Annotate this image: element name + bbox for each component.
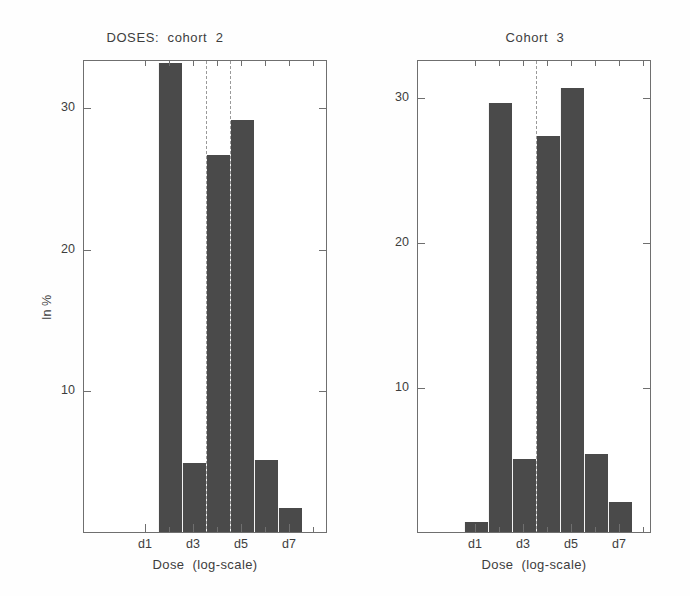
- bar-d4: [206, 155, 230, 532]
- x-tick-mark: [475, 60, 476, 66]
- x-tick-mark: [265, 60, 266, 66]
- x-tick-mark-major: [475, 524, 476, 533]
- y-tick-label: 20: [379, 235, 409, 249]
- y-tick-mark: [417, 243, 425, 244]
- y-tick-mark: [643, 243, 651, 244]
- bar-d6: [254, 460, 278, 532]
- x-tick-mark-major: [619, 524, 620, 533]
- x-tick-mark: [145, 60, 146, 66]
- x-tick-label: d1: [132, 537, 158, 551]
- y-tick-mark: [643, 388, 651, 389]
- x-tick-label: d3: [180, 537, 206, 551]
- annotation-dashed-line-1: [536, 61, 537, 532]
- x-tick-mark-major: [523, 524, 524, 533]
- x-tick-mark: [169, 527, 170, 533]
- x-tick-mark: [619, 60, 620, 66]
- x-tick-mark: [571, 60, 572, 66]
- x-axis-label-left: Dose (log-scale): [83, 557, 327, 572]
- x-tick-mark-major: [571, 524, 572, 533]
- x-tick-mark: [595, 60, 596, 66]
- y-tick-label: 10: [45, 383, 75, 397]
- bar-d7: [608, 502, 632, 532]
- x-tick-mark: [643, 60, 644, 66]
- x-tick-mark: [289, 60, 290, 66]
- y-tick-mark: [319, 391, 327, 392]
- x-tick-mark-major: [289, 524, 290, 533]
- bar-d2: [158, 63, 182, 532]
- y-axis-label-left: In %: [40, 295, 54, 320]
- bar-d1: [464, 522, 488, 532]
- y-tick-mark: [643, 98, 651, 99]
- x-tick-mark: [499, 527, 500, 533]
- x-tick-mark: [241, 60, 242, 66]
- x-tick-label: d7: [276, 537, 302, 551]
- bar-d4: [536, 136, 560, 532]
- bar-d5: [230, 120, 254, 532]
- y-tick-mark: [83, 391, 91, 392]
- x-tick-mark-major: [241, 524, 242, 533]
- x-tick-mark: [643, 527, 644, 533]
- x-tick-mark: [217, 527, 218, 533]
- plot-inner-right: [418, 61, 650, 532]
- plot-area-right: [417, 60, 651, 533]
- y-tick-mark: [319, 250, 327, 251]
- x-tick-mark: [193, 60, 194, 66]
- x-tick-label: d5: [228, 537, 254, 551]
- x-tick-label: d5: [558, 537, 584, 551]
- bar-d7: [278, 508, 302, 532]
- y-tick-mark: [417, 98, 425, 99]
- x-tick-mark: [313, 527, 314, 533]
- bar-d2: [488, 103, 512, 532]
- y-tick-mark: [83, 108, 91, 109]
- chart-title-right: Cohort 3: [380, 30, 690, 45]
- y-tick-mark: [319, 108, 327, 109]
- plot-inner-left: [84, 61, 326, 532]
- y-tick-label: 30: [45, 100, 75, 114]
- x-tick-mark: [313, 60, 314, 66]
- x-tick-mark: [217, 60, 218, 66]
- chart-title-left: DOSES: cohort 2: [0, 30, 330, 45]
- bar-d3: [512, 459, 536, 532]
- y-tick-label: 10: [379, 380, 409, 394]
- annotation-dashed-line-1: [206, 61, 207, 532]
- y-tick-mark: [83, 250, 91, 251]
- x-tick-mark: [547, 527, 548, 533]
- y-tick-label: 30: [379, 90, 409, 104]
- bar-d5: [560, 88, 584, 532]
- x-tick-mark: [595, 527, 596, 533]
- x-axis-label-right: Dose (log-scale): [417, 557, 651, 572]
- x-tick-mark: [523, 60, 524, 66]
- x-tick-label: d3: [510, 537, 536, 551]
- x-tick-mark: [547, 60, 548, 66]
- chart-panel-left: DOSES: cohort 2 102030 d1d3d5d7 Dose (lo…: [0, 0, 360, 596]
- bar-d6: [584, 454, 608, 532]
- y-tick-mark: [417, 388, 425, 389]
- x-tick-mark-major: [193, 524, 194, 533]
- plot-area-left: [83, 60, 327, 533]
- x-tick-mark: [169, 60, 170, 66]
- annotation-dashed-line-2: [230, 61, 231, 532]
- chart-panel-right: Cohort 3 102030 d1d3d5d7 Dose (log-scale…: [360, 0, 690, 596]
- figure-canvas: DOSES: cohort 2 102030 d1d3d5d7 Dose (lo…: [0, 0, 690, 596]
- x-tick-mark: [265, 527, 266, 533]
- x-tick-label: d7: [606, 537, 632, 551]
- bar-d3: [182, 463, 206, 532]
- x-tick-mark-major: [145, 524, 146, 533]
- x-tick-label: d1: [462, 537, 488, 551]
- x-tick-mark: [499, 60, 500, 66]
- y-tick-label: 20: [45, 242, 75, 256]
